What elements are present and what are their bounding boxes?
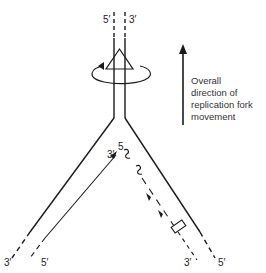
caption-line: Overall: [191, 75, 266, 87]
top-right-strand-label: 3′: [129, 15, 136, 25]
caption-line: movement: [191, 111, 266, 123]
bottom-left-3-label: 3′: [4, 258, 11, 268]
ligase-box-icon: [171, 220, 186, 233]
leading-strand-3-label: 3′: [107, 150, 114, 160]
bottom-left-5-label: 5′: [41, 258, 48, 268]
right-arm: [125, 118, 215, 260]
primer-5-label: 5: [118, 142, 124, 152]
rna-primer-squiggle-icon: [136, 165, 142, 174]
bottom-right-5-label: 5′: [218, 258, 225, 268]
caption-line: direction of: [191, 87, 266, 99]
rna-primer-squiggle-icon: [124, 149, 130, 158]
helicase-triangle-icon: [106, 49, 133, 69]
left-arm: [12, 118, 117, 258]
direction-caption: Overall direction of replication fork mo…: [191, 75, 266, 123]
top-left-strand-label: 5′: [103, 15, 110, 25]
replication-fork-diagram: [0, 0, 266, 273]
parental-duplex: [114, 12, 125, 118]
caption-line: replication fork: [191, 99, 266, 111]
bottom-right-3-label: 3′: [184, 258, 191, 268]
